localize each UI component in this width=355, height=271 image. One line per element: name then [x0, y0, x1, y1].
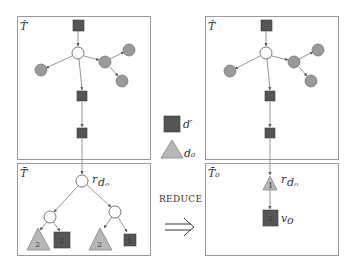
- square-node: [261, 20, 272, 31]
- square-leaf-value: 1: [127, 236, 132, 245]
- right-top-panel: T̂: [206, 17, 339, 176]
- gray-circle-node: [123, 44, 135, 56]
- edge: [299, 52, 313, 59]
- square-node: [77, 91, 87, 101]
- square-node: [77, 128, 87, 138]
- edge: [54, 186, 78, 212]
- internal-circle-node: [44, 211, 56, 223]
- left-bottom-panel: T̄ r dₒ 2 2 2 1: [18, 164, 151, 256]
- edge: [235, 56, 260, 69]
- root-circle-node: [72, 47, 84, 59]
- legend: d′ d₀: [161, 116, 196, 160]
- gray-circle-node: [35, 64, 47, 76]
- panel-label-t-hat: T̂: [208, 20, 217, 33]
- left-top-panel: T̂: [18, 17, 151, 175]
- edge: [267, 59, 270, 90]
- reduce-transform: REDUCE: [159, 194, 202, 236]
- triangle-leaf-value: 2: [97, 240, 102, 249]
- legend-square-icon: [164, 116, 180, 132]
- gray-circle-node: [312, 44, 324, 56]
- edge: [46, 56, 72, 68]
- edge: [299, 67, 307, 76]
- edge: [118, 217, 127, 232]
- gray-circle-node: [288, 56, 300, 68]
- root-circle-node: [260, 47, 272, 59]
- reduce-diagram: T̂ T̄ r dₒ 2 2: [0, 0, 355, 271]
- gray-circle-node: [116, 75, 128, 87]
- triangle-node-label-subscript: dₒ: [287, 176, 298, 189]
- gray-circle-node: [99, 56, 111, 68]
- panel-label-t-hat: T̂: [20, 20, 29, 33]
- square-node-value: 2: [268, 214, 273, 223]
- reduce-label: REDUCE: [159, 194, 202, 204]
- edge: [40, 222, 47, 230]
- internal-circle-node: [109, 206, 121, 218]
- gray-circle-node: [305, 75, 317, 87]
- edge: [272, 56, 288, 60]
- panel-label-t-bar: T̄: [20, 167, 29, 180]
- edge: [79, 59, 82, 90]
- edge: [53, 222, 60, 231]
- right-bottom-panel: T̄₀ 1 r dₒ 2 v o: [206, 164, 339, 256]
- legend-square-label: d′: [183, 118, 193, 131]
- double-arrow-icon: [165, 218, 194, 236]
- edge: [84, 56, 99, 60]
- edge: [110, 67, 118, 76]
- triangle-leaf-value: 2: [35, 240, 40, 249]
- panel-border: [206, 164, 339, 256]
- edge: [110, 52, 124, 59]
- square-node: [265, 128, 275, 138]
- square-node: [265, 91, 275, 101]
- triangle-node-value: 1: [268, 181, 273, 190]
- square-leaf-value: 2: [59, 236, 64, 245]
- legend-triangle-label: d₀: [184, 147, 196, 160]
- gray-circle-node: [224, 65, 236, 77]
- square-node-label-subscript: o: [287, 214, 294, 227]
- square-node: [73, 20, 84, 31]
- panel-label-t-bar-0: T̄₀: [208, 167, 220, 180]
- legend-triangle-icon: [161, 140, 183, 158]
- root-label-subscript: dₒ: [98, 176, 109, 189]
- edge: [104, 217, 112, 228]
- root-circle-node: [76, 175, 88, 187]
